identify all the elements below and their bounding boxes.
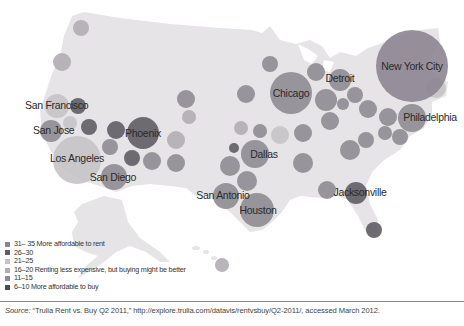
city-label: Jacksonville	[333, 186, 386, 198]
city-label: Phoenix	[125, 127, 162, 139]
city-bubble	[53, 53, 71, 71]
city-bubble	[124, 150, 140, 166]
city-bubble	[229, 143, 239, 153]
divider	[0, 301, 464, 302]
city-bubble	[379, 108, 397, 126]
legend-item: 16–20 Renting less expensive, but buying…	[5, 266, 186, 275]
legend-swatch	[5, 242, 10, 247]
city-bubble	[293, 153, 313, 173]
city-label: Detroit	[326, 72, 355, 84]
city-bubble	[337, 98, 349, 110]
city-label: San Diego	[90, 171, 137, 183]
city-label: Dallas	[250, 148, 277, 160]
legend-swatch	[5, 250, 10, 255]
city-bubble	[234, 121, 248, 135]
source-note: Source: “Trulia Rent vs. Buy Q2 2011,” h…	[5, 306, 380, 315]
city-bubble	[347, 87, 363, 103]
city-bubble	[340, 140, 360, 160]
city-bubble	[358, 132, 374, 148]
city-bubble	[359, 100, 377, 118]
legend-swatch	[5, 259, 10, 264]
city-bubble	[262, 56, 278, 72]
city-bubble	[215, 258, 229, 272]
city-label: Philadelphia	[403, 111, 457, 123]
city-label: New York City	[381, 60, 444, 72]
city-bubble	[253, 124, 267, 138]
legend-item: 6–10 More affordable to buy	[5, 283, 186, 292]
city-bubble	[315, 89, 337, 111]
legend-swatch	[5, 268, 10, 273]
city-label: San Jose	[33, 124, 75, 136]
city-bubble	[237, 85, 255, 103]
city-bubble	[237, 171, 257, 191]
city-bubble	[81, 119, 97, 135]
city-label: San Francisco	[25, 99, 89, 111]
city-bubble	[378, 126, 392, 140]
city-bubble	[366, 222, 382, 238]
hawaii-islands	[192, 246, 217, 260]
city-bubble	[167, 154, 185, 172]
city-bubble	[307, 63, 325, 81]
city-label: Chicago	[273, 87, 310, 99]
city-bubble	[271, 126, 289, 144]
city-bubble	[392, 129, 408, 145]
city-bubble	[321, 112, 339, 130]
city-label: San Antonio	[196, 189, 250, 201]
city-bubble	[220, 156, 240, 176]
city-label: Los Angeles	[50, 152, 104, 164]
city-bubble	[294, 124, 312, 142]
city-bubble	[73, 20, 89, 36]
city-bubble	[143, 152, 161, 170]
legend-swatch	[5, 276, 10, 281]
city-bubble	[107, 121, 125, 139]
city-bubble	[182, 110, 196, 124]
city-bubble	[167, 131, 185, 149]
legend: 31– 35 More affordable to rent 26–30 21–…	[5, 240, 186, 292]
legend-swatch	[5, 285, 10, 290]
city-bubble	[102, 139, 118, 155]
city-label: Houston	[239, 204, 276, 216]
city-bubble	[177, 90, 195, 108]
